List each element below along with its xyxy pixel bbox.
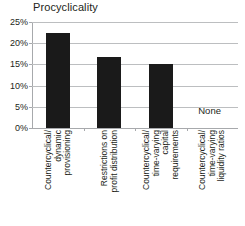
y-axis-tick-labels: 25%20%15%10%5%0% <box>0 22 30 129</box>
x-category-label-line: liquidity ratios <box>217 130 227 226</box>
x-category-label-line: Countercyclical/ <box>44 130 54 226</box>
bar <box>97 57 121 128</box>
bar <box>46 33 70 128</box>
x-category-label-line: profit distribution <box>109 130 119 226</box>
x-category-label-line: Countercyclical/ <box>142 130 152 226</box>
y-tick-label: 5% <box>0 103 28 112</box>
x-category-label-line: provisioning <box>63 130 73 226</box>
y-tick-mark <box>29 128 32 129</box>
bar <box>149 64 173 128</box>
y-tick-label: 15% <box>0 60 28 69</box>
x-category-label-line: capital <box>161 130 171 226</box>
chart-title: Procyclicality <box>33 1 98 14</box>
x-category-label-line: requirements <box>170 130 180 226</box>
y-tick-label: 0% <box>0 124 28 133</box>
bar-slot <box>135 22 187 128</box>
x-category-label: Countercyclical/dynamicprovisioning <box>44 130 73 226</box>
x-category-label: Countercyclical/time-varyingcapitalrequi… <box>142 130 180 226</box>
bar-slot <box>84 22 136 128</box>
none-annotation: None <box>198 106 221 116</box>
procyclicality-bar-chart: Procyclicality 25%20%15%10%5%0% Counterc… <box>0 0 245 226</box>
x-label-slot: Restrictions onprofit distribution <box>84 130 136 226</box>
bar-slot <box>32 22 84 128</box>
x-label-slot: Countercyclical/dynamicprovisioning <box>32 130 84 226</box>
y-tick-label: 10% <box>0 82 28 91</box>
y-tick-label: 25% <box>0 18 28 27</box>
x-label-slot: Countercyclical/time-varyingliquidity ra… <box>187 130 239 226</box>
x-category-label: Restrictions onprofit distribution <box>100 130 119 226</box>
x-label-slot: Countercyclical/time-varyingcapitalrequi… <box>135 130 187 226</box>
y-tick-label: 20% <box>0 39 28 48</box>
x-category-label: Countercyclical/time-varyingliquidity ra… <box>198 130 227 226</box>
x-axis-category-labels: Countercyclical/dynamicprovisioningRestr… <box>32 130 238 226</box>
